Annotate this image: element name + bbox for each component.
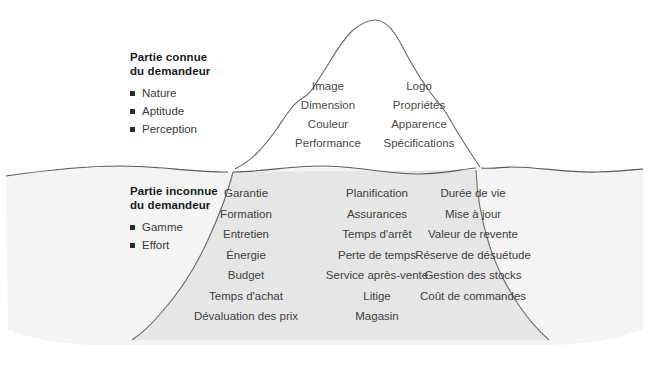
square-bullet-icon xyxy=(130,225,135,230)
column-visible-left: Image Dimension Couleur Performance xyxy=(286,77,370,153)
legend-known-items: Nature Aptitude Perception xyxy=(130,84,210,138)
attribute-label: Image xyxy=(286,77,370,96)
legend-known-item-label: Nature xyxy=(142,86,177,100)
square-bullet-icon xyxy=(130,109,135,114)
legend-known-title: Partie connue du demandeur xyxy=(130,50,210,78)
square-bullet-icon xyxy=(130,91,135,96)
square-bullet-icon xyxy=(130,243,135,248)
column-visible-right: Logo Propriétés Apparence Spécifications xyxy=(374,77,464,153)
attribute-label: Réserve de désuétude xyxy=(405,245,541,266)
attribute-label: Mise à jour xyxy=(405,204,541,225)
attribute-label: Formation xyxy=(176,204,316,225)
column-hidden-3: Durée de vie Mise à jour Valeur de reven… xyxy=(405,183,541,306)
attribute-label: Garantie xyxy=(176,183,316,204)
attribute-label: Propriétés xyxy=(374,96,464,115)
legend-unknown-item-label: Effort xyxy=(142,238,169,252)
attribute-label: Entretien xyxy=(176,224,316,245)
attribute-label: Valeur de revente xyxy=(405,224,541,245)
legend-known-item: Perception xyxy=(130,120,210,138)
attribute-label: Apparence xyxy=(374,115,464,134)
column-hidden-1: Garantie Formation Entretien Énergie Bud… xyxy=(176,183,316,327)
legend-known-title-line1: Partie connue xyxy=(130,51,207,63)
attribute-label: Coût de commandes xyxy=(405,286,541,307)
square-bullet-icon xyxy=(130,127,135,132)
attribute-label: Dévaluation des prix xyxy=(176,306,316,327)
attribute-label: Gestion des stocks xyxy=(405,265,541,286)
attribute-label: Magasin xyxy=(312,306,442,327)
attribute-label: Couleur xyxy=(286,115,370,134)
attribute-label: Logo xyxy=(374,77,464,96)
legend-known-title-line2: du demandeur xyxy=(130,65,210,77)
attribute-label: Spécifications xyxy=(374,134,464,153)
attribute-label: Budget xyxy=(176,265,316,286)
iceberg-diagram-canvas: Partie connue du demandeur Nature Aptitu… xyxy=(0,0,649,373)
attribute-label: Dimension xyxy=(286,96,370,115)
attribute-label: Durée de vie xyxy=(405,183,541,204)
attribute-label: Énergie xyxy=(176,245,316,266)
legend-known-item-label: Perception xyxy=(142,122,197,136)
attribute-label: Temps d'achat xyxy=(176,286,316,307)
legend-known-item: Nature xyxy=(130,84,210,102)
legend-known-item-label: Aptitude xyxy=(142,104,184,118)
attribute-label: Performance xyxy=(286,134,370,153)
legend-known-item: Aptitude xyxy=(130,102,210,120)
legend-known-part: Partie connue du demandeur Nature Aptitu… xyxy=(130,50,210,138)
